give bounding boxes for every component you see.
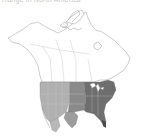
range-central: [68, 82, 86, 112]
range-east: [84, 80, 116, 126]
canada-outline: [8, 10, 130, 82]
range-map: [0, 0, 141, 136]
range-texas: [64, 112, 78, 128]
